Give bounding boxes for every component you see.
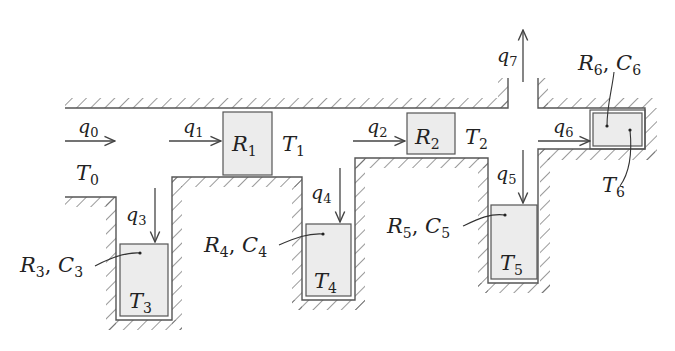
thermal-diagram: q0 q1 q2 q3 q4 q5 q6 q7 T0 T1 T2 T3 T4 T… [0,0,675,351]
t2-label: T2 [465,125,488,152]
q7-label: q7 [497,44,517,69]
rc6-label: R6, C6 [577,51,641,78]
t1-label: T1 [282,132,305,159]
mass-t6-box [593,113,642,146]
t0-label: T0 [76,161,99,188]
rc5-label: R5, C5 [386,214,450,241]
q1-label: q1 [183,115,203,140]
q4-label: q4 [311,181,331,206]
q3-label: q3 [126,203,146,228]
q2-label: q2 [367,115,387,140]
q5-label: q5 [496,162,516,187]
t6-label: T6 [602,173,625,200]
q6-label: q6 [553,115,573,140]
rc4-label: R4, C4 [203,233,267,260]
q0-label: q0 [78,115,98,140]
rc3-label: R3, C3 [19,253,83,280]
